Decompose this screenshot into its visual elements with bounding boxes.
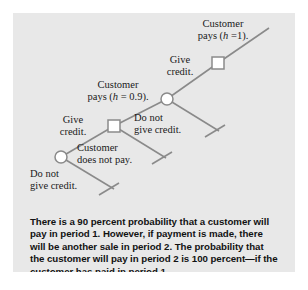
label-customer-pays-09-post: = 0.9). bbox=[118, 91, 148, 102]
label-give-credit-chance1: Give credit. bbox=[153, 54, 207, 77]
node-decision-1-square[interactable] bbox=[108, 120, 120, 132]
label-customer-does-not-pay-line1: Customer bbox=[77, 142, 177, 154]
decision-tree-diagram: Give credit. Do not give credit. Custome… bbox=[13, 13, 295, 213]
label-customer-pays-09-line1: Customer bbox=[71, 79, 165, 91]
label-customer-pays-09-pre: pays ( bbox=[87, 91, 112, 102]
label-customer-pays-1-line2: pays (h =1). bbox=[176, 30, 270, 42]
label-give-credit-chance1-line1: Give bbox=[153, 54, 207, 66]
figure-caption: There is a 90 percent probability that a… bbox=[30, 216, 279, 272]
label-customer-does-not-pay-line2: does not pay. bbox=[77, 154, 177, 166]
node-root-circle[interactable] bbox=[55, 151, 67, 163]
label-do-not-give-credit-chance1-line1: Do not bbox=[134, 112, 218, 124]
label-customer-pays-1-pre: pays ( bbox=[198, 30, 223, 41]
label-do-not-give-credit-root-line1: Do not bbox=[30, 168, 110, 180]
label-give-credit-root: Give credit. bbox=[46, 114, 100, 137]
label-give-credit-root-line1: Give bbox=[46, 114, 100, 126]
label-customer-pays-09: Customer pays (h = 0.9). bbox=[71, 79, 165, 102]
label-customer-does-not-pay: Customer does not pay. bbox=[77, 142, 177, 165]
label-do-not-give-credit-chance1: Do not give credit. bbox=[134, 112, 218, 135]
label-do-not-give-credit-root-line2: give credit. bbox=[30, 180, 110, 192]
figure-panel: Give credit. Do not give credit. Custome… bbox=[13, 13, 295, 272]
label-customer-pays-09-line2: pays (h = 0.9). bbox=[71, 91, 165, 103]
label-give-credit-chance1-line2: credit. bbox=[153, 66, 207, 78]
node-decision-2-square[interactable] bbox=[212, 57, 224, 69]
label-customer-pays-1-post: =1). bbox=[228, 30, 248, 41]
label-do-not-give-credit-root: Do not give credit. bbox=[30, 168, 110, 191]
label-customer-pays-1: Customer pays (h =1). bbox=[176, 18, 270, 41]
label-customer-pays-1-line1: Customer bbox=[176, 18, 270, 30]
label-do-not-give-credit-chance1-line2: give credit. bbox=[134, 124, 218, 136]
label-give-credit-root-line2: credit. bbox=[46, 126, 100, 138]
